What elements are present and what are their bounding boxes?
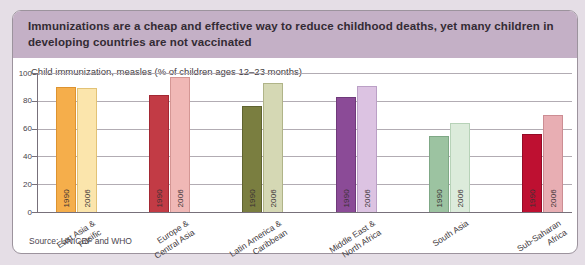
- bar-1990: 1990: [522, 134, 542, 212]
- x-axis-label: Latin America & Caribbean: [228, 218, 290, 265]
- y-axis-tick-label: 80: [11, 96, 32, 105]
- gridline: [38, 184, 572, 185]
- chart-header: Immunizations are a cheap and effective …: [13, 11, 577, 58]
- bar-1990: 1990: [429, 136, 449, 212]
- source-note: Source: UNICEF and WHO: [29, 236, 132, 246]
- bar-group: 19902006: [522, 115, 563, 212]
- bar-1990: 1990: [149, 95, 169, 212]
- y-axis-tickmark: [32, 156, 37, 157]
- y-axis-tick-label: 100: [11, 69, 32, 78]
- bar-group: 19902006: [149, 77, 190, 212]
- y-axis-tick-label: 60: [11, 124, 32, 133]
- gridline: [38, 156, 572, 157]
- x-axis-label: South Asia: [430, 218, 470, 249]
- bar-year-label: 1990: [62, 189, 71, 208]
- bar-year-label: 2006: [176, 189, 185, 208]
- bar-2006: 2006: [263, 83, 283, 212]
- plot-area: 1990200619902006199020061990200619902006…: [37, 73, 572, 213]
- bar-group: 19902006: [56, 87, 97, 212]
- bar-year-label: 2006: [83, 189, 92, 208]
- bar-1990: 1990: [56, 87, 76, 212]
- bar-year-label: 2006: [269, 189, 278, 208]
- bar-year-label: 1990: [528, 189, 537, 208]
- chart-card: Immunizations are a cheap and effective …: [12, 10, 578, 254]
- bar-2006: 2006: [357, 86, 377, 212]
- bar-year-label: 1990: [248, 189, 257, 208]
- bar-year-label: 2006: [455, 189, 464, 208]
- y-axis-tick-label: 40: [11, 152, 32, 161]
- y-axis: 020406080100: [13, 73, 34, 223]
- bar-group: 19902006: [336, 86, 377, 212]
- chart-headline: Immunizations are a cheap and effective …: [28, 18, 559, 50]
- y-axis-tickmark: [32, 101, 37, 102]
- x-axis-label: Europe & Central Asia: [146, 218, 196, 261]
- y-axis-tickmark: [32, 184, 37, 185]
- y-axis-tickmark: [32, 129, 37, 130]
- bar-1990: 1990: [336, 97, 356, 212]
- y-axis-tick-label: 20: [11, 180, 32, 189]
- bar-year-label: 2006: [362, 189, 371, 208]
- y-axis-tickmark: [32, 73, 37, 74]
- bar-2006: 2006: [77, 88, 97, 212]
- y-axis-tickmark: [32, 212, 37, 213]
- page-background: { "header": { "title": "Immunizations ar…: [0, 0, 585, 265]
- bar-group: 19902006: [242, 83, 283, 212]
- bar-group: 19902006: [429, 123, 470, 212]
- gridline: [38, 73, 572, 74]
- bar-2006: 2006: [170, 77, 190, 212]
- y-axis-tick-label: 0: [11, 208, 32, 217]
- bar-year-label: 1990: [155, 189, 164, 208]
- bar-year-label: 2006: [549, 189, 558, 208]
- bar-2006: 2006: [450, 123, 470, 212]
- bar-1990: 1990: [242, 106, 262, 212]
- x-axis-label: Middle East & North Africa: [327, 218, 383, 265]
- bar-2006: 2006: [543, 115, 563, 212]
- gridline: [38, 101, 572, 102]
- bar-year-label: 1990: [341, 189, 350, 208]
- bar-year-label: 1990: [434, 189, 443, 208]
- gridline: [38, 129, 572, 130]
- x-axis-label: Sub-Saharan Africa: [515, 218, 569, 264]
